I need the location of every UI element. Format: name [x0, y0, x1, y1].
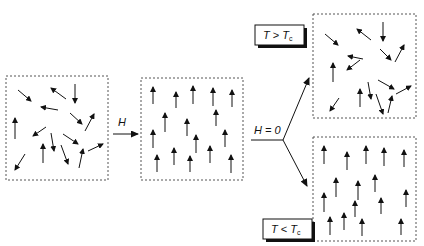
field-applied-label: H	[118, 116, 126, 128]
temperature-label-high: T>Tc	[255, 25, 307, 48]
spin-arrow-icon	[61, 145, 68, 164]
spin-arrow-icon	[18, 90, 31, 101]
spin-arrow-icon	[41, 107, 58, 110]
spin-arrow-icon	[51, 88, 66, 99]
label-text-low: T<Tc	[271, 223, 301, 236]
field-removed-label: H = 0	[254, 124, 281, 136]
process-connectors: H H = 0	[113, 78, 309, 186]
spin-arrow-icon	[357, 29, 371, 40]
spin-arrow-icon	[380, 49, 391, 60]
branch-up-arrow	[283, 78, 309, 140]
panel-border	[6, 76, 108, 180]
spin-arrow-icon	[348, 56, 363, 59]
panel-border	[141, 78, 243, 180]
spin-arrow-icon	[347, 60, 360, 70]
spin-arrow-icon	[70, 113, 82, 124]
panel-aligned-low-temp	[313, 137, 416, 241]
panel-aligned-field	[141, 78, 243, 180]
spin-arrow-icon	[378, 80, 394, 89]
spin-panels	[6, 14, 416, 241]
temperature-label-low: T<Tc	[263, 219, 315, 242]
branch-down-arrow	[283, 140, 307, 186]
panel-random-initial	[6, 76, 108, 180]
spin-arrow-icon	[15, 154, 25, 170]
label-text-high: T>Tc	[263, 29, 293, 42]
spin-arrow-icon	[79, 149, 83, 168]
spin-arrow-icon	[63, 134, 78, 144]
spin-arrow-icon	[368, 82, 371, 99]
spin-arrow-icon	[33, 127, 46, 136]
panel-border	[313, 14, 416, 118]
magnetization-diagram: H H = 0 T>Tc T<Tc	[0, 0, 424, 246]
spin-arrow-icon	[376, 94, 383, 114]
spin-arrow-icon	[88, 144, 103, 151]
spin-arrow-icon	[395, 45, 404, 62]
spin-arrow-icon	[396, 86, 411, 94]
panel-random-high-temp	[313, 14, 416, 118]
spin-arrow-icon	[325, 34, 338, 45]
spin-arrow-icon	[388, 96, 392, 113]
spin-arrow-icon	[85, 114, 94, 131]
spin-arrow-icon	[51, 133, 54, 151]
spin-arrow-icon	[330, 98, 339, 111]
